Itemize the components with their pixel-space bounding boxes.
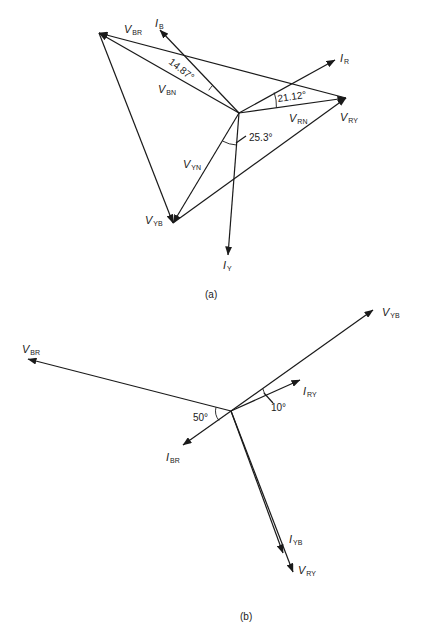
label-i-yb: IYB <box>289 533 303 546</box>
label-i-b: IB <box>155 17 164 30</box>
diagram-b: VYBVBRVRYIRYIBRIYB50°10° (b) <box>22 306 400 622</box>
label-v-rn: VRN <box>289 112 307 125</box>
phasor-diagram-figure: VRNVYNVBNVRYVYBVBRIRIYIB14.87°21.12°25.3… <box>0 0 422 644</box>
label-v-ry: VRY <box>298 564 316 577</box>
label-i-y: IY <box>223 259 232 272</box>
angle-arc-25-3 <box>223 141 237 145</box>
label-v-yb: VYB <box>382 306 400 319</box>
label-v-br: VBR <box>22 343 40 356</box>
phasor-i-yb <box>231 411 283 553</box>
phasor-i-ry <box>231 380 300 411</box>
angle-label-1487: 14.87° <box>167 56 197 83</box>
label-v-yn: VYN <box>183 158 201 171</box>
phasor-i-r <box>239 60 335 113</box>
label-v-bn: VBN <box>158 83 176 96</box>
phasor-v-bn <box>99 33 239 113</box>
label-i-r: IR <box>340 52 349 65</box>
angle-arc-50 <box>216 407 219 420</box>
phasor-v-yb <box>231 310 373 411</box>
label-v-br: VBR <box>124 23 142 36</box>
angle-label-10: 10° <box>271 402 286 413</box>
phasor-v-br <box>28 359 231 411</box>
phasor-v-br <box>99 33 346 98</box>
phasor-i-b <box>160 30 239 113</box>
angle-label-253: 25.3° <box>249 132 272 143</box>
phasor-i-y <box>228 113 239 255</box>
diagram-a: VRNVYNVBNVRYVYBVBRIRIYIB14.87°21.12°25.3… <box>99 17 358 300</box>
label-i-br: IBR <box>166 451 180 464</box>
phasor-v-yb <box>99 33 173 223</box>
label-v-ry: VRY <box>340 111 358 124</box>
caption-a: (a) <box>205 289 217 300</box>
angle-arc-14-87 <box>209 86 213 91</box>
label-i-ry: IRY <box>303 385 317 398</box>
label-v-yb: VYB <box>145 214 163 227</box>
caption-b: (b) <box>240 611 252 622</box>
angle-label-2112: 21.12° <box>277 89 307 104</box>
angle-label-50: 50° <box>193 412 208 423</box>
phasor-diagram-svg: VRNVYNVBNVRYVYBVBRIRIYIB14.87°21.12°25.3… <box>0 0 422 644</box>
phasor-v-ry <box>173 98 346 223</box>
